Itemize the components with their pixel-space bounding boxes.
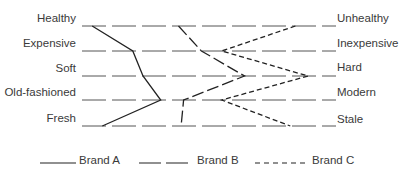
scale-right-label: Unhealthy	[337, 13, 389, 25]
scale-left-label: Fresh	[0, 113, 76, 125]
scale-left-label: Soft	[0, 63, 76, 75]
scale-right-label: Stale	[337, 114, 363, 126]
scale-right-label: Modern	[337, 87, 376, 99]
scale-right-label: Hard	[337, 62, 362, 74]
legend-item-brand-b: Brand B	[197, 155, 239, 167]
scale-left-label: Old-fashioned	[0, 87, 76, 99]
scale-left-label: Healthy	[0, 13, 76, 25]
scale-left-label: Expensive	[0, 38, 76, 50]
legend-item-brand-c: Brand C	[312, 155, 354, 167]
scale-right-label: Inexpensive	[337, 38, 398, 50]
legend-item-brand-a: Brand A	[79, 155, 120, 167]
